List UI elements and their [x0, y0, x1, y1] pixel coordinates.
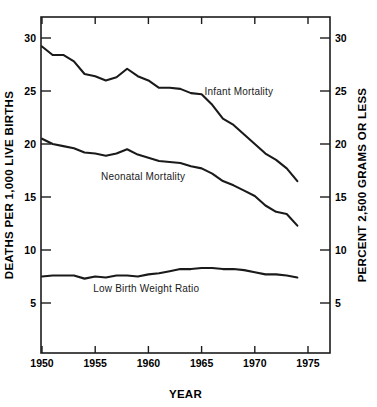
annotation-low-birth-weight-ratio: Low Birth Weight Ratio	[93, 283, 199, 294]
y-tick-label-left-10: 10	[24, 244, 36, 256]
y-tick-label-left-25: 25	[24, 85, 36, 97]
data-series-lines	[42, 46, 297, 278]
y-tick-label-right-15: 15	[335, 191, 347, 203]
x-tick-label-1960: 1960	[137, 357, 161, 369]
annotation-infant-mortality: Infant Mortality	[204, 86, 273, 97]
axis-ticks	[41, 17, 330, 353]
y-tick-label-right-5: 5	[335, 297, 341, 309]
y-axis-title-right: PERCENT 2,500 GRAMS OR LESS	[356, 88, 368, 283]
y-tick-label-left-15: 15	[24, 191, 36, 203]
x-tick-label-1970: 1970	[243, 357, 267, 369]
plot-border	[41, 17, 330, 353]
y-tick-label-left-5: 5	[30, 297, 36, 309]
y-axis-title-left: DEATHS PER 1,000 LIVE BIRTHS	[3, 91, 15, 279]
plot-frame	[41, 17, 330, 353]
chart-figure: 1950195519601965197019755101520253051015…	[0, 0, 377, 407]
series-line-low-birth-weight-ratio	[42, 268, 297, 279]
series-line-infant-mortality	[42, 46, 297, 181]
y-tick-label-right-30: 30	[335, 32, 347, 44]
series-line-neonatal-mortality	[42, 139, 297, 226]
y-tick-label-right-25: 25	[335, 85, 347, 97]
y-tick-label-left-30: 30	[24, 32, 36, 44]
x-axis-title: YEAR	[169, 388, 203, 400]
chart-canvas: 1950195519601965197019755101520253051015…	[0, 0, 377, 407]
y-tick-label-right-20: 20	[335, 138, 347, 150]
y-tick-label-right-10: 10	[335, 244, 347, 256]
y-tick-label-left-20: 20	[24, 138, 36, 150]
x-tick-label-1955: 1955	[84, 357, 108, 369]
series-annotations: Infant MortalityNeonatal MortalityLow Bi…	[93, 86, 273, 294]
x-tick-label-1965: 1965	[190, 357, 214, 369]
x-tick-label-1950: 1950	[30, 357, 54, 369]
x-tick-label-1975: 1975	[296, 357, 320, 369]
annotation-neonatal-mortality: Neonatal Mortality	[101, 171, 185, 182]
axis-tick-labels: 1950195519601965197019755101520253051015…	[24, 32, 347, 369]
